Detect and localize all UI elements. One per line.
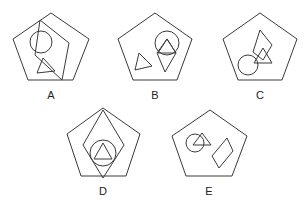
figure-option-e[interactable] — [172, 110, 247, 176]
option-label-c: C — [256, 90, 264, 101]
figure-option-d[interactable] — [67, 108, 140, 178]
pentagon-outline — [223, 13, 297, 80]
figure-option-c[interactable] — [223, 13, 297, 80]
triangle-shape — [94, 143, 112, 159]
option-label-a: A — [47, 90, 54, 101]
triangle-shape — [193, 133, 211, 145]
diamond-shape — [212, 138, 233, 168]
option-label-e: E — [205, 186, 212, 197]
diamond-shape — [253, 30, 272, 60]
triangle-shape — [158, 39, 176, 53]
circle-shape — [238, 55, 258, 75]
circle-shape — [30, 31, 52, 53]
figure-option-a[interactable] — [13, 13, 89, 80]
option-label-b: B — [151, 90, 158, 101]
diamond-shape — [157, 39, 176, 72]
option-label-d: D — [99, 186, 107, 197]
figure-option-b[interactable] — [118, 13, 192, 80]
triangle-shape — [135, 53, 152, 70]
